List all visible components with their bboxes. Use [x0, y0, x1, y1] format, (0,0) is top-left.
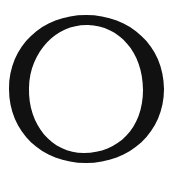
letter-o-glyph [0, 0, 172, 176]
letter-o-shape [9, 15, 164, 163]
glyph-canvas: O [0, 0, 172, 176]
